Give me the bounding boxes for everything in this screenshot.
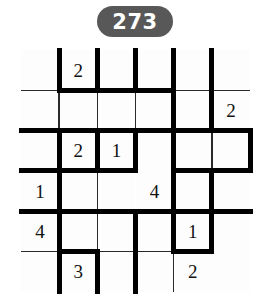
puzzle-root: 273 2221144132 — [0, 0, 270, 305]
grid-cell-r3-c1[interactable] — [59, 171, 97, 211]
wall-segment-h — [209, 168, 252, 173]
wall-segment-v — [133, 249, 138, 294]
wall-segment-h — [19, 168, 62, 173]
wall-segment-v — [57, 168, 62, 213]
grid-cell-r2-c1[interactable]: 2 — [59, 131, 97, 171]
grid-line-v — [97, 90, 99, 130]
grid-cell-r2-c2[interactable]: 1 — [97, 131, 135, 171]
grid-cell-r3-c3[interactable]: 4 — [136, 171, 174, 211]
grid-cell-r3-c2[interactable] — [97, 171, 135, 211]
grid-cell-r1-c3[interactable] — [136, 90, 174, 130]
grid-cell-r0-c2[interactable] — [97, 50, 135, 90]
wall-segment-v — [57, 209, 62, 254]
grid-line-h — [212, 90, 250, 92]
grid-cell-r4-c4[interactable]: 1 — [174, 211, 212, 251]
grid-cell-r3-c5[interactable] — [212, 171, 250, 211]
grid-cell-r5-c3[interactable] — [136, 252, 174, 292]
grid-cell-r4-c5[interactable] — [212, 211, 250, 251]
clue-value: 2 — [73, 141, 83, 160]
wall-segment-v — [171, 168, 176, 213]
wall-segment-v — [209, 168, 214, 213]
clue-value: 1 — [35, 182, 45, 201]
wall-segment-v — [57, 249, 62, 294]
grid-cell-r2-c4[interactable] — [174, 131, 212, 171]
grid-cell-r5-c0[interactable] — [21, 252, 59, 292]
wall-segment-v — [95, 128, 100, 173]
wall-segment-h — [57, 168, 100, 173]
wall-segment-h — [133, 88, 176, 93]
wall-segment-v — [57, 48, 62, 93]
wall-segment-h — [95, 88, 138, 93]
clue-value: 3 — [73, 262, 83, 281]
clue-value: 1 — [112, 141, 122, 160]
grid-cell-r2-c5[interactable] — [212, 131, 250, 171]
wall-segment-h — [95, 168, 138, 173]
wall-segment-h — [209, 209, 252, 214]
wall-segment-h — [171, 168, 214, 173]
wall-segment-v — [209, 209, 214, 254]
puzzle-number-badge: 273 — [97, 6, 173, 37]
wall-segment-h — [95, 128, 138, 133]
grid-cell-r4-c0[interactable]: 4 — [21, 211, 59, 251]
grid-cell-r1-c4[interactable] — [174, 90, 212, 130]
wall-segment-v — [57, 128, 62, 173]
wall-segment-v — [95, 48, 100, 93]
grid-line-h — [21, 251, 59, 253]
wall-segment-h — [57, 209, 100, 214]
wall-segment-v — [133, 209, 138, 254]
clue-value: 2 — [73, 61, 83, 80]
grid-line-v — [58, 90, 60, 130]
clue-value: 2 — [188, 262, 198, 281]
puzzle-grid[interactable]: 2221144132 — [21, 50, 250, 292]
grid-cell-r1-c2[interactable] — [97, 90, 135, 130]
grid-line-v — [211, 131, 213, 171]
grid-cell-r0-c4[interactable] — [174, 50, 212, 90]
grid-cell-r4-c1[interactable] — [59, 211, 97, 251]
grid-line-h — [136, 251, 174, 253]
grid-cell-r5-c1[interactable]: 3 — [59, 252, 97, 292]
wall-segment-h — [133, 209, 176, 214]
wall-segment-h — [57, 128, 100, 133]
grid-cell-r1-c5[interactable]: 2 — [212, 90, 250, 130]
grid-cell-r3-c4[interactable] — [174, 171, 212, 211]
grid-line-v — [135, 90, 137, 130]
wall-segment-h — [95, 209, 138, 214]
grid-cell-r0-c3[interactable] — [136, 50, 174, 90]
grid-cell-r3-c0[interactable]: 1 — [21, 171, 59, 211]
wall-segment-v — [209, 88, 214, 133]
grid-cell-r0-c1[interactable]: 2 — [59, 50, 97, 90]
wall-segment-v — [171, 128, 176, 173]
grid-cell-r0-c5[interactable] — [212, 50, 250, 90]
wall-segment-h — [57, 88, 100, 93]
wall-segment-h — [171, 128, 214, 133]
wall-segment-v — [95, 249, 100, 294]
grid-cell-r0-c0[interactable] — [21, 50, 59, 90]
wall-segment-v — [171, 48, 176, 93]
grid-line-v — [97, 171, 99, 211]
grid-cell-r5-c2[interactable] — [97, 252, 135, 292]
wall-segment-h — [19, 128, 62, 133]
grid-cell-r4-c3[interactable] — [136, 211, 174, 251]
grid-cell-r5-c5[interactable] — [212, 252, 250, 292]
grid-cell-r1-c1[interactable] — [59, 90, 97, 130]
grid-line-v — [173, 252, 175, 292]
grid-cell-r1-c0[interactable] — [21, 90, 59, 130]
grid-cell-r5-c4[interactable]: 2 — [174, 252, 212, 292]
clue-value: 4 — [35, 222, 45, 241]
grid-cell-r2-c0[interactable] — [21, 131, 59, 171]
wall-segment-v — [133, 48, 138, 93]
wall-segment-h — [133, 128, 176, 133]
wall-segment-h — [171, 209, 214, 214]
grid-cell-r2-c3[interactable] — [136, 131, 174, 171]
clue-value: 2 — [226, 101, 236, 120]
grid-line-v — [97, 211, 99, 251]
grid-line-h — [97, 251, 135, 253]
grid-cell-r4-c2[interactable] — [97, 211, 135, 251]
wall-segment-h — [209, 128, 252, 133]
grid-line-h — [21, 90, 59, 92]
wall-segment-v — [133, 128, 138, 173]
puzzle-number-header: 273 — [0, 6, 270, 37]
wall-segment-h — [19, 209, 62, 214]
wall-segment-v — [248, 128, 253, 173]
wall-segment-h — [57, 249, 100, 254]
